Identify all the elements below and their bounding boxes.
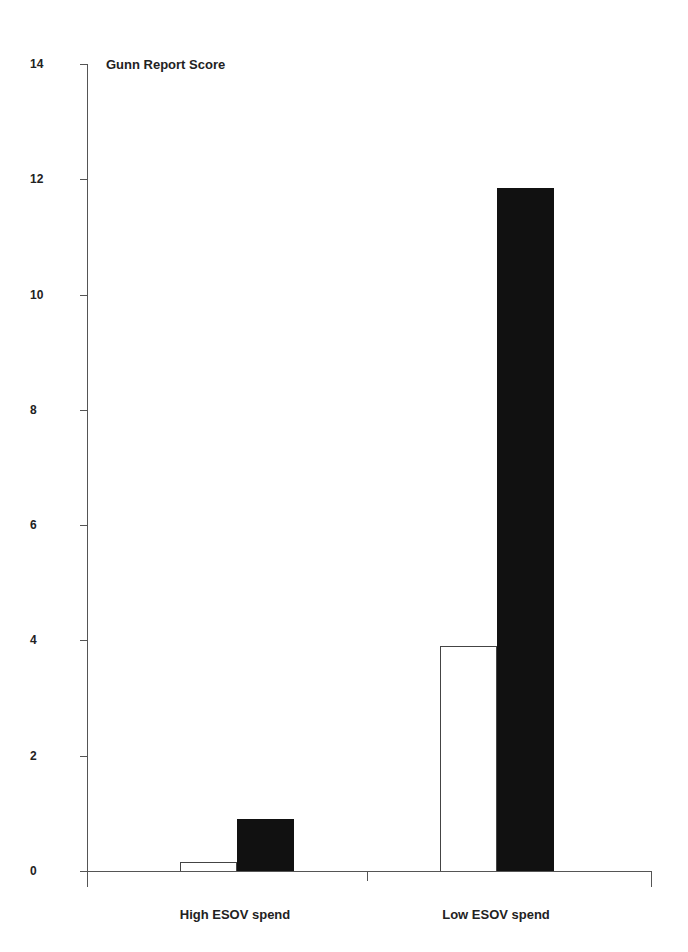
x-axis — [80, 871, 652, 872]
y-tick-label: 10 — [30, 288, 50, 302]
bar-high-esov-series1 — [180, 862, 237, 871]
y-axis — [87, 64, 88, 887]
x-axis-left-end — [87, 871, 88, 887]
y-tick-mark — [80, 640, 88, 641]
x-axis-right-end — [651, 871, 652, 887]
y-tick-label: 6 — [30, 518, 50, 532]
y-tick-label: 2 — [30, 749, 50, 763]
x-axis-category-divider — [367, 871, 368, 881]
y-tick-label: 12 — [30, 172, 50, 186]
x-label-high-esov: High ESOV spend — [180, 907, 291, 922]
y-tick-mark — [80, 756, 88, 757]
bar-chart: Gunn Report Score 02468101214 High ESOV … — [0, 0, 688, 952]
y-tick-mark — [80, 295, 88, 296]
bar-high-esov-series2 — [237, 819, 294, 871]
chart-title: Gunn Report Score — [106, 57, 225, 72]
y-tick-mark — [80, 525, 88, 526]
x-label-low-esov: Low ESOV spend — [442, 907, 550, 922]
bar-low-esov-series2 — [497, 188, 554, 871]
y-tick-label: 0 — [30, 864, 50, 878]
bar-low-esov-series1 — [440, 646, 497, 871]
y-tick-label: 14 — [30, 57, 50, 71]
y-tick-mark — [80, 64, 88, 65]
y-tick-mark — [80, 179, 88, 180]
y-tick-label: 4 — [30, 633, 50, 647]
y-tick-mark — [80, 410, 88, 411]
y-tick-label: 8 — [30, 403, 50, 417]
